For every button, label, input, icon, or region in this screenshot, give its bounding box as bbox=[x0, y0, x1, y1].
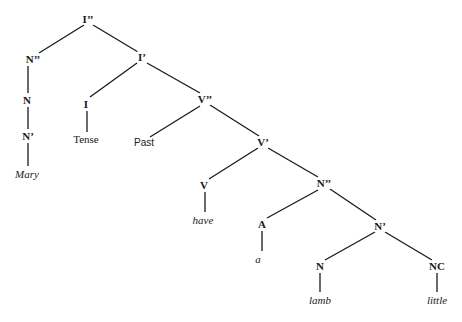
node-I-bar: I’ bbox=[137, 52, 147, 63]
leaf-a: a bbox=[254, 254, 262, 265]
leaf-lamb: lamb bbox=[308, 295, 332, 306]
tree-branch bbox=[385, 232, 432, 260]
node-NC: NC bbox=[428, 261, 446, 272]
tree-branch bbox=[209, 148, 258, 179]
node-A: A bbox=[257, 219, 267, 230]
node-I: I bbox=[83, 99, 89, 110]
node-N-double-bar-object: N’’ bbox=[316, 178, 332, 189]
node-N-double-bar-subject: N’’ bbox=[25, 54, 41, 65]
leaf-past: Past bbox=[133, 138, 155, 148]
node-V-double-bar: V’’ bbox=[197, 94, 213, 105]
node-I-double-bar: I’’ bbox=[82, 14, 95, 25]
tree-branch bbox=[325, 232, 375, 260]
node-N-object: N bbox=[315, 261, 325, 272]
tree-branch bbox=[90, 63, 137, 97]
node-N-subject: N bbox=[22, 95, 32, 106]
tree-branch bbox=[150, 106, 200, 137]
node-V: V bbox=[199, 180, 209, 191]
leaf-have: have bbox=[192, 215, 215, 226]
tree-branch bbox=[39, 25, 84, 53]
tree-branch bbox=[210, 105, 259, 136]
leaf-little: little bbox=[426, 295, 448, 306]
tree-branch bbox=[267, 190, 318, 218]
tree-branch bbox=[268, 148, 318, 177]
syntax-tree-edges bbox=[0, 0, 462, 322]
tree-branch bbox=[147, 63, 200, 93]
node-N-bar-object: N’ bbox=[373, 221, 387, 232]
leaf-mary: Mary bbox=[14, 169, 40, 180]
tree-branch bbox=[330, 189, 376, 220]
node-N-bar-subject: N’ bbox=[21, 131, 35, 142]
node-V-bar: V’ bbox=[256, 137, 270, 148]
leaf-tense: Tense bbox=[72, 134, 100, 145]
tree-branch bbox=[93, 25, 138, 52]
